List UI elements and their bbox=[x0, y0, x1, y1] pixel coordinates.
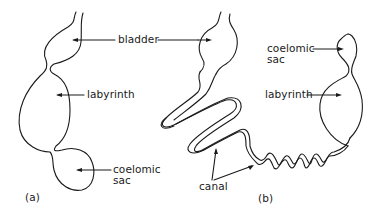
caption-panel-b: (b) bbox=[258, 193, 273, 204]
panel-b-bladder-outline bbox=[199, 12, 237, 74]
diagram-drawing bbox=[0, 0, 374, 213]
label-coelomic-sac-b-line2: sac bbox=[267, 54, 285, 65]
panel-b-labyrinth-sac-outline bbox=[320, 34, 363, 146]
caption-panel-a: (a) bbox=[25, 192, 40, 203]
label-canal: canal bbox=[199, 181, 228, 192]
panel-b-pointers bbox=[212, 47, 344, 180]
label-bladder: bladder bbox=[118, 34, 159, 45]
panel-a-organ-outline bbox=[19, 12, 94, 190]
label-coelomic-sac-a-line2: sac bbox=[113, 175, 131, 186]
label-labyrinth-b: labyrinth bbox=[265, 89, 313, 100]
panel-a-pointers bbox=[56, 38, 198, 172]
label-labyrinth-a: labyrinth bbox=[87, 89, 135, 100]
